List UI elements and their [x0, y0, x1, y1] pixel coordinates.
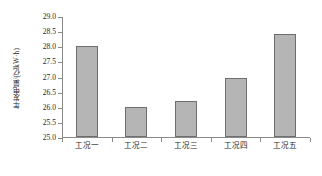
y-axis-tick: [58, 93, 62, 94]
plot-area: 25.025.526.026.527.027.528.028.529.0 工况一…: [62, 17, 310, 138]
x-axis-tick: [62, 138, 63, 142]
y-axis-tick: [58, 108, 62, 109]
y-axis-tick: [58, 17, 62, 18]
y-axis-line: [62, 17, 63, 138]
y-axis-tick-label: 27.0: [43, 74, 56, 82]
x-axis-tick: [161, 138, 162, 142]
y-axis-tick-label: 25.5: [43, 119, 56, 127]
y-axis-title: 年发电量/(亿kW·h): [10, 18, 26, 138]
x-axis-tick-label: 工况五: [273, 142, 297, 150]
x-axis-tick-label: 工况四: [224, 142, 248, 150]
x-axis-tick: [260, 138, 261, 142]
bar: [274, 34, 296, 137]
x-axis-tick-label: 工况一: [75, 142, 99, 150]
y-axis-tick: [58, 47, 62, 48]
y-axis-tick-label: 26.5: [43, 89, 56, 97]
x-axis-tick-label: 工况二: [124, 142, 148, 150]
y-axis-tick-label: 25.0: [43, 134, 56, 142]
y-axis-tick-label: 27.5: [43, 59, 56, 67]
y-axis-tick: [58, 32, 62, 33]
y-axis-tick: [58, 78, 62, 79]
y-axis-tick-label: 29.0: [43, 13, 56, 21]
x-axis-tick: [310, 138, 311, 142]
x-axis-line: [62, 137, 310, 138]
y-axis-tick-label: 26.0: [43, 104, 56, 112]
x-axis-tick: [211, 138, 212, 142]
y-axis-tick-label: 28.0: [43, 43, 56, 51]
x-axis-tick-label: 工况三: [174, 142, 198, 150]
bar: [125, 107, 147, 137]
bar: [76, 46, 98, 137]
bar: [225, 78, 247, 137]
bar-chart-figure: 年发电量/(亿kW·h) 25.025.526.026.527.027.528.…: [0, 0, 322, 176]
y-axis-tick: [58, 123, 62, 124]
y-axis-tick-label: 28.5: [43, 28, 56, 36]
bar: [175, 101, 197, 137]
x-axis-tick: [112, 138, 113, 142]
y-axis-tick: [58, 62, 62, 63]
y-axis-title-text: 年发电量/(亿kW·h): [14, 48, 21, 109]
